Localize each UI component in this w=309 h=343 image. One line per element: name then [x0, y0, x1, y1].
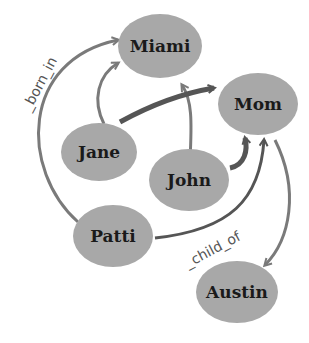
node-john[interactable]: John	[149, 149, 229, 211]
node-austin[interactable]: Austin	[196, 261, 278, 323]
edge-jane-mom	[120, 88, 214, 122]
edge-jane-miami	[98, 63, 118, 124]
node-label-patti: Patti	[90, 226, 136, 246]
edge-label-born-in: _born_in	[18, 54, 60, 114]
edge-mom-austin	[265, 140, 289, 265]
edge-john-mom	[230, 138, 246, 168]
node-label-miami: Miami	[130, 36, 191, 56]
graph-diagram: _born_in _child_of Miami Mom Jane John P…	[0, 0, 309, 343]
node-patti[interactable]: Patti	[73, 205, 153, 267]
node-mom[interactable]: Mom	[218, 73, 298, 135]
node-jane[interactable]: Jane	[61, 123, 137, 181]
node-label-austin: Austin	[205, 282, 268, 302]
node-label-john: John	[165, 170, 211, 190]
node-label-jane: Jane	[76, 142, 120, 162]
node-label-mom: Mom	[234, 94, 282, 114]
graph-svg: _born_in _child_of Miami Mom Jane John P…	[0, 0, 309, 343]
node-miami[interactable]: Miami	[118, 14, 202, 78]
